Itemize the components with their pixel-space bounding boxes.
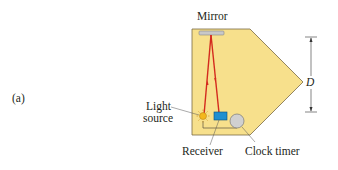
light-source-label-line2: source bbox=[143, 112, 173, 124]
distance-bracket bbox=[305, 37, 317, 112]
clock-timer-label: Clock timer bbox=[245, 145, 300, 157]
clock-timer-icon bbox=[230, 114, 244, 128]
panel-label: (a) bbox=[12, 92, 25, 104]
mirror-label: Mirror bbox=[197, 10, 228, 22]
receiver-label: Receiver bbox=[182, 145, 223, 157]
receiver-icon bbox=[214, 112, 227, 120]
apparatus-body bbox=[192, 29, 303, 135]
mirror-icon bbox=[199, 31, 224, 35]
light-source-label-line1: Light bbox=[146, 100, 171, 112]
distance-label: D bbox=[306, 76, 314, 88]
